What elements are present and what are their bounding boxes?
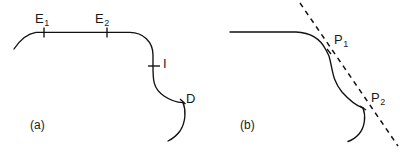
label-p1-subscript: 1: [343, 39, 349, 49]
label-e1-base: E: [35, 11, 44, 26]
label-i-base: I: [163, 56, 167, 71]
label-p2: P2: [371, 91, 385, 107]
label-i: I: [163, 57, 167, 70]
figure-drawing-canvas: [0, 0, 412, 152]
panel-b-caption: (b): [240, 119, 255, 131]
panel-a-main-curve: [14, 32, 183, 102]
panel-b-dashed-secant-line: [300, 3, 398, 146]
figure-container: E1 E2 I D (a) P1 P2 (b): [0, 0, 412, 152]
panel-a-trailing-arc: [168, 103, 185, 141]
label-p2-subscript: 2: [380, 97, 386, 107]
panel-a-caption: (a): [30, 119, 45, 131]
label-e2-subscript: 2: [104, 18, 110, 28]
panel-b-trailing-arc: [348, 108, 365, 142]
label-d-base: D: [186, 91, 195, 106]
panel-b-geometry: [230, 3, 398, 146]
label-d: D: [186, 92, 195, 105]
label-p2-base: P: [371, 90, 380, 105]
label-e2-base: E: [95, 11, 104, 26]
label-p1: P1: [334, 33, 348, 49]
label-e1-subscript: 1: [44, 18, 50, 28]
label-e1: E1: [35, 12, 49, 28]
label-p1-base: P: [334, 32, 343, 47]
label-e2: E2: [95, 12, 109, 28]
